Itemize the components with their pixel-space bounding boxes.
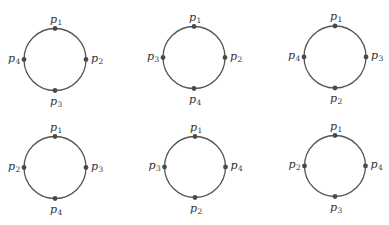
point-label-bottom: p2 [330,93,342,106]
point-top [53,26,58,31]
point-label-bottom: p3 [50,96,62,109]
point-right [364,55,369,60]
label-base: p [330,92,337,105]
point-label-left: p4 [288,50,300,63]
point-left [22,57,27,62]
point-label-right: p3 [371,50,383,63]
label-base: p [91,160,98,173]
circle-outline [304,26,366,88]
label-base: p [8,52,15,65]
label-base: p [289,158,296,171]
circle-outline [165,137,226,198]
point-right [84,165,89,170]
point-label-top: p1 [189,12,201,25]
point-right [223,55,228,60]
label-base: p [190,121,197,134]
label-base: p [50,13,57,26]
point-bottom [333,86,338,91]
point-top [333,24,338,29]
label-subscript: 3 [338,206,343,215]
point-label-right: p2 [91,53,103,66]
label-subscript: 3 [99,165,104,174]
point-top [193,134,198,139]
label-subscript: 3 [58,100,63,109]
label-base: p [189,93,196,106]
point-bottom [53,88,58,93]
circle-6 [302,133,368,199]
label-subscript: 4 [16,57,21,66]
label-subscript: 4 [378,163,383,172]
label-subscript: 3 [156,164,161,173]
label-subscript: 2 [99,57,104,66]
label-subscript: 3 [379,54,384,63]
point-bottom [333,194,338,199]
circle-outline [24,29,86,91]
label-base: p [50,203,57,216]
label-base: p [288,49,295,62]
point-label-right: p3 [91,161,103,174]
point-right [223,165,228,170]
point-label-left: p2 [289,159,301,172]
label-subscript: 1 [58,18,63,27]
point-left [302,164,307,169]
point-left [302,55,307,60]
point-label-top: p1 [330,121,342,134]
point-right [363,164,368,169]
label-base: p [190,202,197,215]
point-label-bottom: p4 [189,94,201,107]
circle-3 [302,24,369,91]
label-subscript: 3 [155,55,160,64]
point-label-bottom: p3 [330,202,342,215]
circle-outline [163,27,225,89]
point-label-top: p1 [50,14,62,27]
diagram-canvas [0,0,389,225]
point-top [333,133,338,138]
label-subscript: 4 [58,208,63,217]
label-subscript: 2 [338,97,343,106]
point-top [53,134,58,139]
label-subscript: 2 [296,163,301,172]
label-subscript: 4 [296,54,301,63]
label-base: p [149,159,156,172]
label-subscript: 1 [198,126,203,135]
point-label-left: p3 [147,51,159,64]
point-label-left: p3 [149,160,161,173]
point-left [22,165,27,170]
label-subscript: 1 [338,15,343,24]
point-top [192,24,197,29]
label-base: p [8,160,15,173]
label-subscript: 2 [198,207,203,216]
point-label-left: p4 [8,53,20,66]
label-base: p [330,201,337,214]
label-subscript: 4 [197,98,202,107]
point-bottom [192,86,197,91]
point-bottom [53,196,58,201]
label-base: p [189,11,196,24]
label-base: p [50,95,57,108]
point-label-right: p4 [231,160,243,173]
point-label-left: p2 [8,161,20,174]
circle-4 [22,134,89,201]
label-base: p [231,159,238,172]
label-base: p [371,158,378,171]
label-subscript: 2 [238,55,243,64]
circle-outline [305,136,366,197]
point-left [162,165,167,170]
label-subscript: 1 [197,16,202,25]
point-left [161,55,166,60]
label-subscript: 4 [238,164,243,173]
point-label-top: p1 [50,122,62,135]
label-subscript: 2 [16,165,21,174]
point-right [84,57,89,62]
point-label-top: p1 [190,122,202,135]
circle-outline [24,137,86,199]
label-base: p [371,49,378,62]
circle-1 [22,26,89,93]
point-label-bottom: p4 [50,204,62,217]
circle-5 [162,134,228,200]
label-base: p [91,52,98,65]
label-base: p [147,50,154,63]
label-base: p [330,10,337,23]
label-subscript: 1 [58,126,63,135]
label-base: p [330,120,337,133]
